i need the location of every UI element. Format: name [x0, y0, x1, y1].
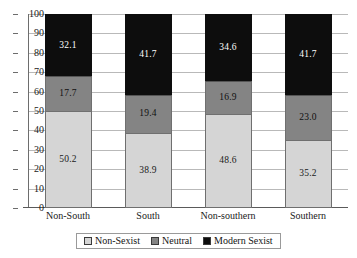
y-tick-mark-80	[13, 53, 18, 54]
bar-group: 50.217.732.1	[45, 14, 92, 208]
x-tick-label-non-southern: Non-southern	[188, 211, 268, 221]
bar-segment: 38.9	[125, 133, 172, 208]
bar-segment: 16.9	[205, 81, 252, 114]
bar-group: 38.919.441.7	[125, 14, 172, 208]
y-tick-mark-30	[13, 150, 18, 151]
y-tick-mark-10	[13, 189, 18, 190]
legend-item-non-sexist[interactable]: Non-Sexist	[84, 236, 140, 246]
y-tick-mark-90	[13, 33, 18, 34]
bar-value-label: 35.2	[299, 169, 316, 179]
bar-value-label: 41.7	[299, 50, 316, 60]
bar-value-label: 50.2	[59, 155, 76, 165]
bar-value-label: 41.7	[139, 50, 156, 60]
y-tick-mark-60	[13, 92, 18, 93]
bars-layer: 50.217.732.138.919.441.748.616.934.635.2…	[28, 14, 348, 208]
y-tick-label-80: 80	[18, 48, 44, 58]
bar-value-label: 38.9	[139, 166, 156, 176]
y-tick-label-100: 100	[18, 9, 44, 19]
y-tick-label-20: 20	[18, 164, 44, 174]
bar-segment: 48.6	[205, 114, 252, 208]
bar-segment: 35.2	[285, 140, 332, 208]
bar-segment: 50.2	[45, 111, 92, 208]
y-tick-label-10: 10	[18, 184, 44, 194]
y-tick-label-50: 50	[18, 106, 44, 116]
bar-segment: 17.7	[45, 76, 92, 110]
bar-value-label: 17.7	[59, 89, 76, 99]
stacked-bar-chart: 50.217.732.138.919.441.748.616.934.635.2…	[0, 0, 357, 258]
y-tick-mark-40	[13, 130, 18, 131]
y-tick-mark-20	[13, 169, 18, 170]
legend-label: Modern Sexist	[214, 236, 273, 246]
legend-item-neutral[interactable]: Neutral	[151, 236, 192, 246]
y-tick-mark-70	[13, 72, 18, 73]
bar-segment: 34.6	[205, 14, 252, 81]
legend-swatch-icon	[84, 237, 92, 245]
y-tick-label-70: 70	[18, 67, 44, 77]
bar-segment: 32.1	[45, 14, 92, 76]
y-tick-label-90: 90	[18, 28, 44, 38]
chart-legend: Non-SexistNeutralModern Sexist	[76, 233, 281, 249]
bar-segment: 41.7	[125, 14, 172, 95]
bar-value-label: 16.9	[219, 93, 236, 103]
plot-area: 50.217.732.138.919.441.748.616.934.635.2…	[28, 14, 348, 208]
bar-group: 35.223.041.7	[285, 14, 332, 208]
bar-value-label: 34.6	[219, 43, 236, 53]
y-tick-label-30: 30	[18, 145, 44, 155]
bar-value-label: 32.1	[59, 41, 76, 51]
bar-segment: 19.4	[125, 95, 172, 133]
bar-group: 48.616.934.6	[205, 14, 252, 208]
legend-item-modern-sexist[interactable]: Modern Sexist	[203, 236, 273, 246]
legend-label: Non-Sexist	[95, 236, 140, 246]
bar-value-label: 19.4	[139, 109, 156, 119]
bar-value-label: 23.0	[299, 113, 316, 123]
legend-swatch-icon	[203, 237, 211, 245]
y-tick-label-40: 40	[18, 125, 44, 135]
x-tick-label-southern: Southern	[268, 211, 348, 221]
bar-value-label: 48.6	[219, 156, 236, 166]
y-tick-mark-100	[13, 14, 18, 15]
x-tick-label-non-south: Non-South	[28, 211, 108, 221]
y-tick-label-60: 60	[18, 87, 44, 97]
x-tick-label-south: South	[108, 211, 188, 221]
y-tick-mark-0	[13, 208, 18, 209]
bar-segment: 23.0	[285, 95, 332, 140]
bar-segment: 41.7	[285, 14, 332, 95]
y-tick-mark-50	[13, 111, 18, 112]
legend-label: Neutral	[162, 236, 192, 246]
legend-swatch-icon	[151, 237, 159, 245]
